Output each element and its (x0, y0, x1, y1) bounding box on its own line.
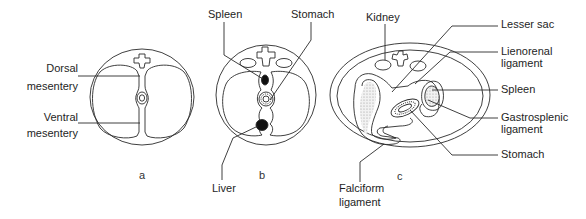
label-spleen-c: Spleen (501, 83, 535, 95)
label-falciform-ligament: Falciform (339, 182, 384, 194)
leader-stomach (270, 22, 311, 100)
body-wall-outer (90, 49, 194, 145)
label-stomach-c: Stomach (501, 148, 544, 160)
panel-letter-a: a (139, 169, 145, 181)
body-wall-outer (216, 45, 316, 145)
leader-falciform (360, 144, 384, 182)
label-kidney: Kidney (366, 11, 400, 23)
liver-organ (256, 120, 268, 131)
label-ventral-mesentery-line2: mesentery (20, 127, 78, 139)
label-lienorenal-ligament-line2: ligament (501, 57, 543, 69)
vertebra-icon (134, 54, 150, 68)
label-lesser-sac: Lesser sac (501, 18, 554, 30)
spleen-organ (262, 75, 269, 85)
right-peritoneal-cavity (145, 65, 192, 138)
label-gastrosplenic-ligament-line2: ligament (501, 123, 543, 135)
leader-liver (222, 126, 258, 180)
label-ventral-mesentery: Ventral (40, 111, 78, 123)
leader-lienorenal (415, 52, 498, 84)
kidney-left (375, 60, 391, 70)
panel-b-diagram (216, 22, 316, 180)
vertebra-icon (257, 47, 275, 66)
spleen-organ (425, 86, 439, 106)
label-spleen-b: Spleen (208, 8, 242, 20)
right-peritoneal-cavity (270, 71, 309, 136)
label-dorsal-mesentery: Dorsal (40, 62, 78, 74)
label-line1: Ventral (40, 111, 78, 123)
panel-letter-b: b (259, 169, 265, 181)
gut-tube (137, 92, 147, 104)
label-liver: Liver (212, 182, 236, 194)
label-dorsal-mesentery-line2: mesentery (20, 80, 78, 92)
label-lienorenal-ligament: Lienorenal (501, 45, 552, 57)
label-gastrosplenic-ligament: Gastrosplenic (501, 111, 568, 123)
diagram-canvas (0, 0, 586, 219)
kidney-right (276, 59, 292, 68)
stippled-liver (360, 82, 376, 136)
panel-c-diagram (330, 24, 498, 182)
panel-a-diagram (78, 49, 194, 145)
panel-letter-c: c (397, 170, 403, 182)
label-falciform-ligament-line2: ligament (339, 196, 381, 208)
label-stomach-b: Stomach (291, 8, 334, 20)
label-line1: Dorsal (40, 62, 78, 74)
vertebra-icon (392, 51, 408, 66)
